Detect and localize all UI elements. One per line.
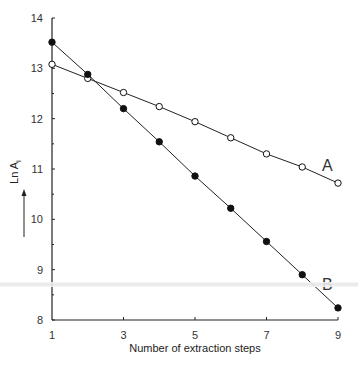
data-point: [49, 39, 55, 45]
arrow-up-icon: [22, 189, 27, 196]
y-tick-label: 13: [31, 62, 43, 74]
data-point: [263, 151, 269, 157]
x-tick-label: 5: [192, 329, 198, 341]
data-point: [120, 89, 126, 95]
x-tick-label: 3: [120, 329, 126, 341]
y-tick-label: 14: [31, 12, 43, 24]
data-point: [263, 238, 269, 244]
y-tick-label: 8: [37, 314, 43, 326]
y-axis-title-group: Ln Ai: [8, 160, 23, 184]
chart: 89101112131413579 Number of extraction s…: [0, 0, 358, 373]
series-b: [49, 39, 341, 311]
data-point: [335, 305, 341, 311]
series-a: [49, 61, 341, 186]
data-point: [192, 118, 198, 124]
y-tick-label: 11: [32, 163, 43, 175]
data-point: [192, 173, 198, 179]
x-tick-label: 7: [263, 329, 269, 341]
data-point: [49, 61, 55, 67]
data-point: [335, 180, 341, 186]
y-tick-label: 10: [31, 213, 43, 225]
x-tick-label: 9: [335, 329, 341, 341]
data-point: [299, 164, 305, 170]
data-point: [156, 103, 162, 109]
y-tick-label: 12: [31, 113, 43, 125]
figure-caption-partial: [0, 365, 358, 373]
y-axis-arrow: [22, 189, 27, 237]
y-axis-title: Ln Ai: [8, 160, 23, 184]
data-point: [156, 139, 162, 145]
x-axis-title: Number of extraction steps: [129, 342, 261, 354]
axes: 89101112131413579: [31, 12, 341, 341]
x-tick-label: 1: [49, 329, 55, 341]
data-point: [228, 205, 234, 211]
series-label-a: A: [322, 157, 333, 174]
data-point: [120, 105, 126, 111]
scan-band: [0, 282, 358, 287]
series-layer: [49, 39, 341, 311]
y-tick-label: 9: [37, 264, 43, 276]
data-point: [228, 135, 234, 141]
data-point: [299, 272, 305, 278]
data-point: [85, 71, 91, 77]
